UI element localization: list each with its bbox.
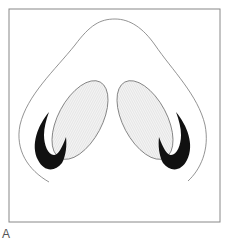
figure-frame bbox=[9, 9, 220, 222]
nose-base-diagram bbox=[0, 0, 225, 242]
panel-label: A bbox=[2, 227, 10, 241]
